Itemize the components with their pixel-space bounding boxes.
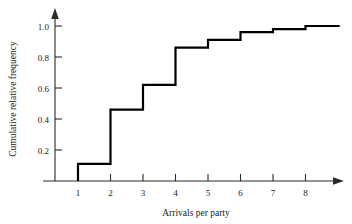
x-tick-label-2: 2 [108, 188, 113, 198]
x-axis-ticks [78, 174, 306, 181]
x-axis-title: Arrivals per party [162, 208, 230, 218]
y-tick-label-0.6: 0.6 [38, 84, 50, 94]
chart-figure: 0.2 0.4 0.6 0.8 1.0 1 2 3 4 5 6 7 8 [0, 0, 352, 224]
y-tick-label-0.4: 0.4 [38, 115, 50, 125]
y-axis-ticks [55, 26, 62, 150]
y-tick-label-0.8: 0.8 [38, 53, 50, 63]
y-axis-arrow-icon [51, 8, 59, 19]
x-tick-label-5: 5 [206, 188, 211, 198]
x-tick-label-1: 1 [76, 188, 81, 198]
x-axis-arrow-icon [333, 177, 344, 184]
x-tick-label-3: 3 [141, 188, 146, 198]
y-tick-label-1.0: 1.0 [38, 22, 50, 32]
x-tick-label-4: 4 [173, 188, 178, 198]
y-axis-title: Cumulative relative frequency [8, 41, 18, 157]
y-tick-label-0.2: 0.2 [38, 146, 49, 156]
y-axis-tick-labels: 0.2 0.4 0.6 0.8 1.0 [38, 22, 50, 156]
axes [43, 8, 344, 185]
x-tick-label-8: 8 [303, 188, 308, 198]
x-tick-label-6: 6 [238, 188, 243, 198]
x-tick-label-7: 7 [271, 188, 276, 198]
x-axis-tick-labels: 1 2 3 4 5 6 7 8 [76, 188, 309, 198]
cumulative-relative-frequency-step-chart: 0.2 0.4 0.6 0.8 1.0 1 2 3 4 5 6 7 8 [0, 0, 352, 224]
step-curve-line [78, 26, 340, 181]
